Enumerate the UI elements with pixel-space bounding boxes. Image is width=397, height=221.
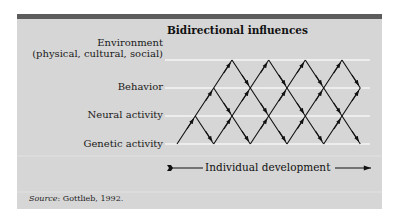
source-text: : Gottlieb, 1992.: [58, 194, 124, 203]
development-axis-label: Individual development: [205, 161, 330, 173]
bidirectional-lattice-diagram: [17, 14, 382, 209]
figure-panel: Bidirectional influences Environment (ph…: [17, 14, 382, 209]
source-prefix: Source: [29, 194, 58, 203]
source-citation: Source: Gottlieb, 1992.: [29, 194, 123, 203]
influence-arrows: [177, 60, 360, 144]
